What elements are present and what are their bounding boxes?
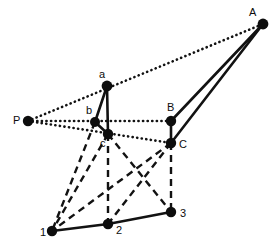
vertex-label-A: A (249, 7, 256, 18)
vertex-label-P: P (13, 115, 20, 126)
vertex-dot-v1[interactable] (47, 226, 57, 236)
perspective-diagram: PAabcBC123 (0, 0, 277, 252)
edge-C-1 (52, 143, 171, 231)
vertex-dot-C[interactable] (166, 138, 176, 148)
diagram-canvas (0, 0, 277, 252)
edge-A-B (171, 24, 263, 121)
vertex-label-c: c (100, 138, 106, 149)
vertex-dot-B[interactable] (166, 116, 176, 126)
bottom-margin-strip (0, 244, 277, 252)
edge-A-C (171, 24, 263, 143)
vertex-label-C: C (179, 139, 187, 150)
vertex-dot-P[interactable] (23, 116, 33, 126)
vertex-label-a: a (99, 69, 105, 80)
edge-c-3 (108, 134, 171, 212)
vertex-dot-b[interactable] (90, 117, 100, 127)
vertex-label-v3: 3 (180, 208, 186, 219)
edge-a-c (107, 86, 108, 134)
vertex-label-v1: 1 (40, 227, 46, 238)
vertex-label-B: B (167, 102, 174, 113)
vertex-dot-v3[interactable] (166, 207, 176, 217)
vertex-label-b: b (86, 105, 92, 116)
edge-C-2 (108, 143, 171, 224)
edge-layer (28, 24, 263, 231)
edge-P-a-A (28, 24, 263, 121)
vertex-dot-a[interactable] (102, 81, 113, 92)
vertex-dot-v2[interactable] (103, 219, 113, 229)
vertex-layer (23, 19, 269, 237)
vertex-dot-A[interactable] (258, 19, 269, 30)
vertex-label-v2: 2 (116, 225, 122, 236)
